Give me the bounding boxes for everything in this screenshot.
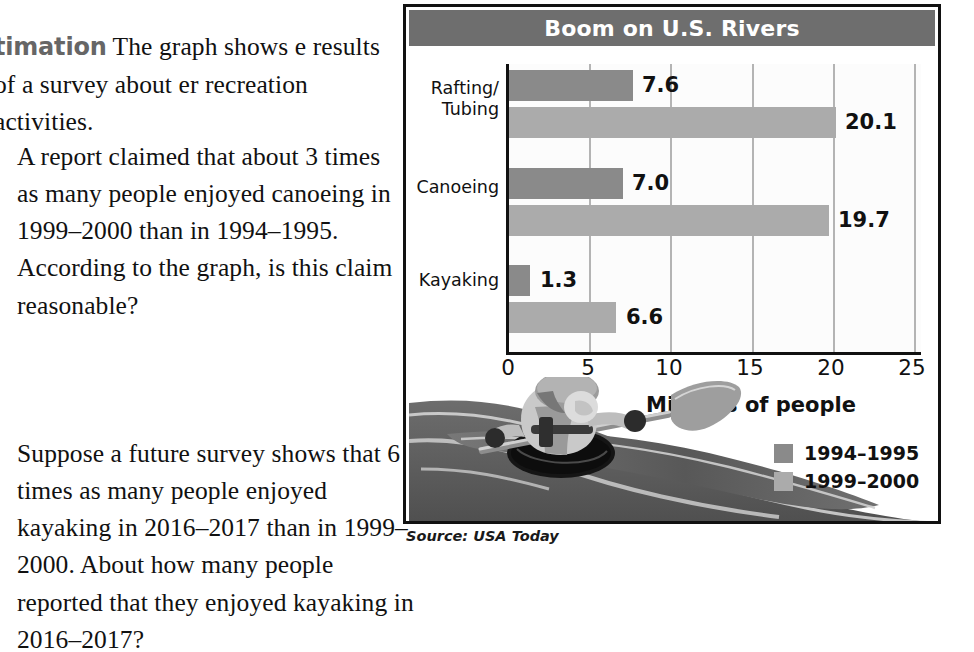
chart-panel: Boom on U.S. Rivers Rafting/ Tubing Cano… bbox=[403, 4, 941, 524]
plot-area: 7.6 20.1 7.0 19.7 1.3 6.6 bbox=[506, 64, 921, 355]
bar-value-kayaking-1999-2000: 6.6 bbox=[626, 302, 663, 333]
category-label-line2: Tubing bbox=[442, 99, 499, 119]
lesson-item-a: A report claimed that about 3 times as m… bbox=[17, 138, 407, 324]
lesson-intro-paragraph: timation The graph shows e results of a … bbox=[0, 28, 398, 141]
bar-canoeing-1994-1995 bbox=[509, 168, 623, 199]
legend-item-1999-2000: 1999–2000 bbox=[774, 467, 924, 495]
category-label-kayaking: Kayaking bbox=[419, 270, 499, 291]
bar-value-rafting-1994-1995: 7.6 bbox=[642, 70, 679, 101]
bar-value-kayaking-1994-1995: 1.3 bbox=[540, 265, 577, 296]
bar-rafting-1999-2000 bbox=[509, 107, 836, 138]
bar-kayaking-1994-1995 bbox=[509, 265, 530, 296]
legend-swatch-1994-1995 bbox=[774, 444, 793, 463]
legend-label-1999-2000: 1999–2000 bbox=[804, 470, 919, 492]
bar-value-canoeing-1994-1995: 7.0 bbox=[632, 168, 669, 199]
bar-canoeing-1999-2000 bbox=[509, 205, 829, 236]
chart-figure: Boom on U.S. Rivers Rafting/ Tubing Cano… bbox=[403, 4, 941, 524]
legend-item-1994-1995: 1994–1995 bbox=[774, 439, 924, 467]
lesson-item-b: Suppose a future survey shows that 6 tim… bbox=[17, 435, 417, 652]
category-axis-labels: Rafting/ Tubing Canoeing Kayaking bbox=[406, 64, 503, 352]
bar-value-canoeing-1999-2000: 19.7 bbox=[838, 205, 890, 236]
legend-swatch-1999-2000 bbox=[774, 472, 793, 491]
category-label-line1: Rafting/ bbox=[431, 78, 499, 98]
legend-label-1994-1995: 1994–1995 bbox=[804, 442, 919, 464]
chart-legend: 1994–1995 1999–2000 bbox=[774, 439, 924, 495]
chart-source-note: Source: USA Today bbox=[406, 528, 559, 544]
chart-title: Boom on U.S. Rivers bbox=[544, 16, 800, 41]
category-label-rafting-tubing: Rafting/ Tubing bbox=[431, 78, 499, 120]
bar-rafting-1994-1995 bbox=[509, 70, 633, 101]
category-label-canoeing: Canoeing bbox=[416, 177, 499, 198]
bar-kayaking-1999-2000 bbox=[509, 302, 616, 333]
lesson-text-column: timation The graph shows e results of a … bbox=[0, 0, 398, 624]
bar-value-rafting-1999-2000: 20.1 bbox=[845, 107, 897, 138]
plot-wrapper: Rafting/ Tubing Canoeing Kayaking 7.6 20… bbox=[406, 46, 938, 391]
lesson-lead-label: timation bbox=[0, 33, 107, 61]
chart-title-bar: Boom on U.S. Rivers bbox=[409, 10, 935, 46]
gridline-25 bbox=[914, 64, 916, 352]
